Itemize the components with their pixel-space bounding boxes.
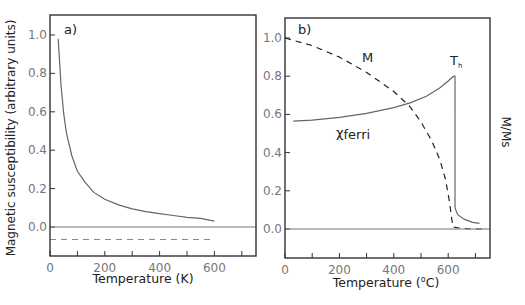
x-tick-label: 600 (203, 261, 226, 275)
panel-b-ticks: 02004006000.00.20.40.60.81.0 (263, 31, 475, 277)
th-main: T (449, 53, 458, 68)
y-tick-label: 0.4 (263, 146, 282, 160)
panel-b-label: b) (298, 22, 311, 37)
panel-a-y-axis-label: Magnetic susceptibility (arbitrary units… (4, 20, 18, 257)
annotation-m: M (362, 50, 373, 65)
y-tick-label: 0.0 (28, 220, 47, 234)
annotation-chi-ferri: χferri (336, 125, 370, 142)
figure: 02004006000.00.20.40.60.81.0 a) Temperat… (0, 0, 525, 305)
y-tick-label: 0.6 (263, 107, 282, 121)
y-tick-label: 1.0 (263, 31, 282, 45)
th-subscript: h (458, 62, 462, 70)
x-tick-label: 600 (437, 263, 460, 277)
panel-a: 02004006000.00.20.40.60.81.0 a) Temperat… (4, 15, 256, 286)
panel-b-frame (285, 18, 490, 258)
y-tick-label: 0.8 (28, 66, 47, 80)
xlabel-prefix: Temperature ( (332, 275, 421, 290)
y-tick-label: 1.0 (28, 28, 47, 42)
panel-a-series (50, 39, 256, 240)
panel-b-x-axis-label: Temperature (oC) (332, 275, 440, 290)
annotation-th: Th (449, 53, 462, 70)
x-tick-label: 0 (46, 261, 54, 275)
series-paramagnetic-curie-law- (58, 39, 214, 221)
y-tick-label: 0.2 (28, 182, 47, 196)
panel-a-x-axis-label: Temperature (K) (91, 271, 193, 286)
xlabel-suffix: C) (426, 275, 440, 290)
y-tick-label: 0.2 (263, 184, 282, 198)
panel-a-label: a) (64, 22, 77, 37)
panel-b-y2-axis-label: M/Ms (499, 116, 513, 147)
y-tick-label: 0.0 (263, 222, 282, 236)
y-tick-label: 0.8 (263, 69, 282, 83)
chi-subscript: ferri (344, 127, 371, 142)
series--ferri (293, 76, 479, 223)
panel-a-frame (50, 15, 256, 256)
y-tick-label: 0.4 (28, 143, 47, 157)
x-tick-label: 0 (281, 263, 289, 277)
y-tick-label: 0.6 (28, 105, 47, 119)
panel-b: 02004006000.00.20.40.60.81.0 b) M χferri… (263, 18, 513, 290)
